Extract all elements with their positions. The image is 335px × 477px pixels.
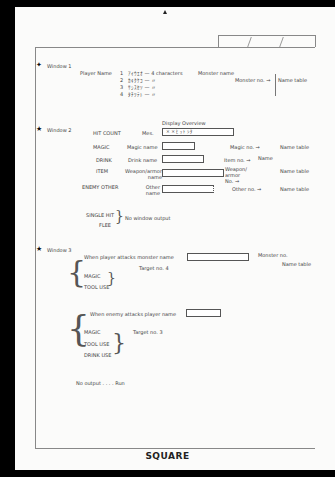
category-magic: MAGIC	[93, 144, 110, 150]
name-table-label: Name table	[280, 168, 309, 174]
list-item: ｱｲｳｴｵ — 4 characters	[128, 70, 183, 76]
ref-label: Weapon/ armor No. →	[225, 166, 247, 184]
name-table-label: Name table	[280, 144, 309, 150]
category-enemy-other: ENEMY OTHER	[82, 184, 118, 190]
monster-name-box	[187, 253, 249, 261]
category-item: ITEM	[96, 168, 108, 174]
attack-item: MAGIC	[84, 273, 101, 279]
brace: }	[107, 270, 116, 286]
ref-label: Other no. →	[232, 186, 261, 192]
monster-name-label: Monster name	[198, 70, 234, 76]
list-num: 2	[120, 77, 123, 83]
list-num: 4	[120, 91, 123, 97]
field-label: Weapon/armor name	[120, 168, 162, 180]
drink-name-box	[162, 155, 204, 163]
attack-item: MAGIC	[84, 329, 101, 335]
star-bullet-icon: ★	[36, 246, 42, 253]
header-tab-box	[218, 35, 316, 47]
no-output-label: No window output	[125, 215, 170, 221]
list-num: 1	[120, 70, 123, 76]
field-label: Magic name	[127, 144, 157, 150]
target-label: Target no. 3	[133, 329, 163, 335]
list-item: ﾀﾁﾂﾃﾄ — 〃	[128, 91, 156, 97]
triangle-marker-icon	[163, 10, 167, 14]
ref-label: Magic no. →	[230, 144, 260, 150]
category-hit-count: HIT COUNT	[93, 130, 121, 136]
player-name-label: Player Name	[80, 70, 112, 76]
other-name-box	[162, 185, 214, 193]
square-logo: SQUARE	[0, 451, 335, 461]
window1-label: Window 1	[47, 63, 72, 69]
name-table-label: Name table	[280, 186, 309, 192]
monster-no-label: Monster no.	[258, 252, 288, 258]
no-output-item: FLEE	[99, 222, 111, 228]
list-item: ｶｷｸｹｺ — 〃	[128, 77, 156, 83]
enemy-attack-title: When enemy attacks player name	[90, 311, 176, 317]
list-num: 3	[120, 84, 123, 90]
window3-label: Window 3	[47, 247, 72, 253]
target-label: Target no. 4	[139, 265, 169, 271]
name-label: Name	[258, 155, 273, 161]
player-name-box	[186, 309, 221, 317]
attack-item: TOOL USE	[84, 341, 109, 347]
window2-label: Window 2	[47, 127, 72, 133]
brace: }	[112, 330, 126, 355]
magic-name-box	[162, 142, 195, 150]
item-name-box	[162, 169, 224, 177]
star-bullet-icon: ✦	[36, 62, 42, 69]
name-table-label: Name table	[278, 77, 307, 83]
category-drink: DRINK	[96, 157, 112, 163]
list-item: ｻｼｽｾｿ — 〃	[128, 84, 156, 90]
player-attack-title: When player attacks monster name	[84, 254, 174, 260]
field-label: Other name	[140, 184, 160, 196]
attack-item: TOOL USE	[84, 284, 109, 290]
display-overview-title: Display Overview	[162, 120, 206, 126]
ref-label: Item no. →	[224, 157, 250, 163]
star-bullet-icon: ★	[36, 126, 42, 133]
monster-no-label: Monster no. →	[235, 77, 270, 83]
attack-item: DRINK USE	[84, 352, 111, 358]
divider	[275, 74, 276, 96]
no-output-run: No output . . . . Run	[76, 380, 125, 386]
name-table-label: Name table	[282, 261, 311, 267]
no-output-item: SINGLE HIT	[86, 212, 114, 218]
spec-frame	[35, 47, 315, 449]
brace: }	[115, 208, 124, 224]
hit-count-box: × × ﾋ ｯ ﾄ ｼ ﾀ	[162, 128, 234, 136]
field-label: Drink name	[128, 157, 157, 163]
field-label: Mes.	[142, 130, 154, 136]
